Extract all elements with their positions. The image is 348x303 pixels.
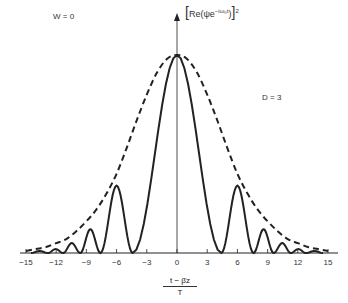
x-tick-label: −9: [82, 258, 91, 267]
w-annotation: W = 0: [53, 12, 74, 21]
x-tick-label: 12: [293, 258, 302, 267]
d-annotation: D = 3: [262, 93, 281, 102]
x-tick-label: 3: [205, 258, 209, 267]
x-tick-label: 9: [265, 258, 269, 267]
ylabel-power: 2: [235, 8, 238, 14]
xlabel-numerator: t − β̇z: [163, 276, 197, 287]
y-axis-label: [Re(ψe−iω₀t)]2: [185, 4, 239, 20]
x-tick-label: −3: [142, 258, 151, 267]
x-tick-label: −15: [19, 258, 33, 267]
x-tick-label: −12: [49, 258, 63, 267]
x-tick-label: 6: [235, 258, 239, 267]
x-axis-label: t − β̇z T: [163, 276, 197, 297]
y-axis-arrow-icon: [174, 13, 180, 21]
xlabel-denominator: T: [163, 287, 197, 297]
ylabel-prefix: Re(ψe: [189, 9, 215, 19]
x-tick-label: 15: [324, 258, 333, 267]
x-tick-label: −6: [112, 258, 121, 267]
x-ticks: [26, 249, 328, 253]
ylabel-exponent: −iω₀t: [215, 8, 229, 14]
x-tick-label: 0: [175, 258, 179, 267]
